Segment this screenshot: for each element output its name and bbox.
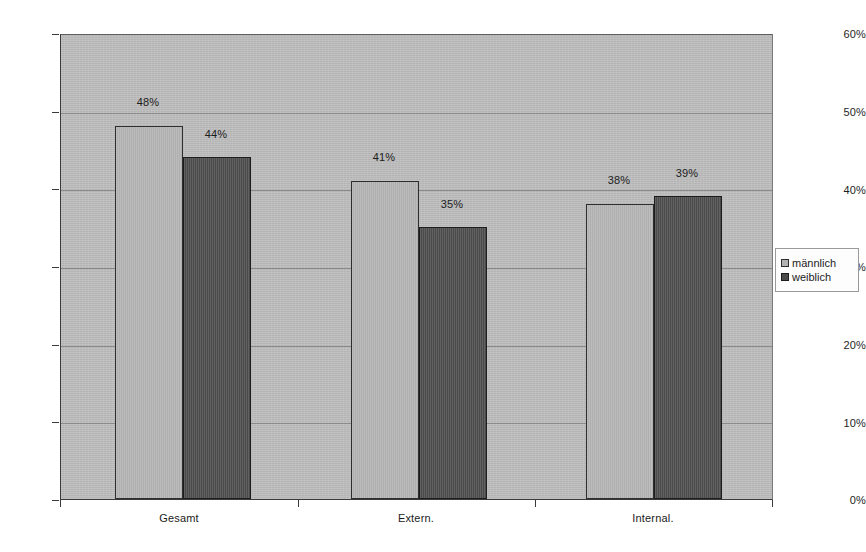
y-axis-tick-40: 40% xyxy=(816,185,866,196)
legend-label-maennlich: männlich xyxy=(792,257,836,269)
legend-swatch-icon-maennlich xyxy=(781,259,789,267)
y-tick-mark-50 xyxy=(52,112,59,113)
legend: männlich weiblich xyxy=(775,248,859,292)
y-axis-tick-10: 10% xyxy=(816,418,866,429)
y-tick-mark-20 xyxy=(52,345,59,346)
y-axis-tick-0: 0% xyxy=(816,495,866,506)
bar-extern-weiblich xyxy=(419,227,487,499)
y-axis-tick-20: 20% xyxy=(816,340,866,351)
gridline-50 xyxy=(61,113,772,114)
x-axis-label-extern: Extern. xyxy=(336,512,496,524)
bar-value-extern-weiblich: 35% xyxy=(422,199,482,210)
y-tick-mark-0 xyxy=(52,500,59,501)
y-tick-mark-30 xyxy=(52,267,59,268)
bar-value-gesamt-weiblich: 44% xyxy=(186,129,246,140)
y-tick-mark-60 xyxy=(52,34,59,35)
y-tick-mark-40 xyxy=(52,189,59,190)
legend-label-weiblich: weiblich xyxy=(792,271,831,283)
legend-swatch-icon-weiblich xyxy=(781,273,789,281)
bar-value-internal-weiblich: 39% xyxy=(657,168,717,179)
bar-internal-maennlich xyxy=(586,204,654,499)
bar-value-extern-maennlich: 41% xyxy=(354,152,414,163)
bar-texture xyxy=(655,197,721,498)
x-tick-mark-2 xyxy=(298,500,299,507)
bar-texture xyxy=(352,182,418,498)
legend-item-maennlich: männlich xyxy=(781,257,853,269)
bar-texture xyxy=(184,158,250,498)
y-axis-tick-50: 50% xyxy=(816,107,866,118)
bar-texture xyxy=(420,228,486,498)
bar-gesamt-maennlich xyxy=(115,126,183,499)
legend-item-weiblich: weiblich xyxy=(781,271,853,283)
x-tick-mark-1 xyxy=(60,500,61,507)
x-tick-mark-3 xyxy=(535,500,536,507)
bar-value-internal-maennlich: 38% xyxy=(589,175,649,186)
x-axis-label-internal: Internal. xyxy=(573,512,733,524)
bar-value-gesamt-maennlich: 48% xyxy=(118,97,178,108)
y-tick-mark-10 xyxy=(52,422,59,423)
bar-texture xyxy=(587,205,653,498)
bar-gesamt-weiblich xyxy=(183,157,251,499)
bar-internal-weiblich xyxy=(654,196,722,499)
bar-texture xyxy=(116,127,182,498)
bar-extern-maennlich xyxy=(351,181,419,499)
x-tick-mark-4 xyxy=(772,500,773,507)
bar-chart: 60% 50% 40% 30% 20% 10% 0% 48% 44% 41% 3… xyxy=(0,0,866,552)
y-axis-tick-60: 60% xyxy=(816,29,866,40)
x-axis-label-gesamt: Gesamt xyxy=(99,512,259,524)
